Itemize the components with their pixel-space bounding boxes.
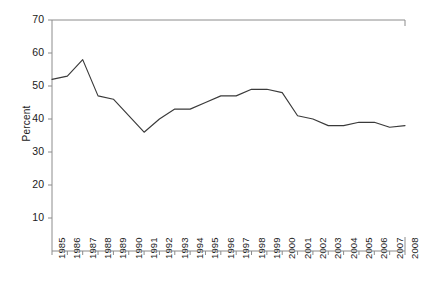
data-series-line [52, 60, 405, 133]
plot-area [0, 0, 424, 308]
chart-axes [48, 20, 405, 255]
line-chart: Percent 10203040506070 19851986198719881… [0, 0, 424, 308]
